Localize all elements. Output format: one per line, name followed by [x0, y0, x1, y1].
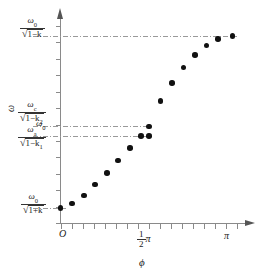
x-axis-tick — [160, 224, 161, 229]
y-axis-tick — [56, 108, 61, 109]
x-axis-tick — [105, 224, 106, 229]
data-point — [230, 33, 236, 39]
data-point — [169, 80, 175, 86]
data-point — [81, 193, 87, 199]
x-tick-label-half-pi: 1 2 π — [137, 230, 151, 250]
x-axis-tick — [204, 224, 205, 229]
data-point — [92, 182, 98, 188]
y-axis-tick — [56, 42, 61, 43]
y-axis-tick — [56, 174, 61, 175]
data-point — [58, 205, 64, 211]
x-axis-arrow-icon — [245, 220, 255, 226]
y-axis-tick — [56, 75, 61, 76]
y-axis-tick — [56, 157, 61, 158]
guide-wa — [33, 136, 149, 137]
y-axis-tick — [56, 190, 61, 191]
x-axis-tick — [193, 224, 194, 229]
x-axis-tick — [116, 224, 117, 229]
x-axis-tick — [94, 224, 95, 229]
data-point — [181, 65, 187, 71]
x-axis-label: ϕ — [139, 256, 145, 268]
x-axis-tick — [226, 224, 227, 229]
dispersion-scatter-figure: ω0 √1−k ωc √1−k2 ω0 ωa √1−k1 ω0 √1+k ω O… — [0, 0, 277, 280]
x-axis-line — [60, 223, 246, 224]
origin-label: O — [59, 228, 66, 239]
x-tick-label-pi: π — [224, 230, 229, 241]
y-axis-tick — [56, 92, 61, 93]
guide-wc — [33, 126, 149, 127]
x-axis-tick — [127, 224, 128, 229]
x-axis-tick — [237, 224, 238, 229]
guide-top — [33, 36, 237, 37]
data-point — [158, 98, 164, 104]
y-axis-tick — [56, 59, 61, 60]
y-axis-tick — [56, 26, 61, 27]
data-point — [215, 36, 221, 42]
x-axis-tick — [215, 224, 216, 229]
x-axis-tick — [149, 224, 150, 229]
data-point — [115, 158, 121, 164]
y-label-omega-a-level: ωa √1−k1 — [18, 125, 46, 150]
data-point — [127, 145, 133, 151]
y-label-lower-branch-start: ω0 √1+k — [21, 192, 46, 215]
y-axis-arrow-icon — [57, 8, 63, 19]
y-axis-label: ω — [5, 105, 16, 112]
data-point — [146, 124, 152, 130]
y-axis-tick — [56, 141, 61, 142]
data-point — [204, 43, 210, 49]
y-axis-tick — [56, 125, 61, 126]
data-point — [192, 52, 198, 58]
x-axis-tick — [72, 224, 73, 229]
x-axis-tick — [182, 224, 183, 229]
y-label-upper-branch-limit: ω0 √1−k — [20, 16, 45, 39]
x-axis-tick — [171, 224, 172, 229]
y-axis-line — [60, 18, 61, 224]
data-point — [69, 201, 75, 207]
data-point — [138, 133, 144, 139]
data-point — [146, 133, 152, 139]
data-point — [104, 170, 110, 176]
x-axis-tick — [83, 224, 84, 229]
